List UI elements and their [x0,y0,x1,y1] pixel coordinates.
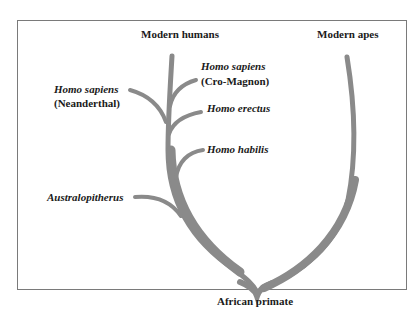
label-modern-apes: Modern apes [317,27,378,41]
ape-lineage-branch [262,57,354,288]
label-homo-erectus: Homo erectus [207,101,270,115]
cromagnon-branch [170,80,196,106]
label-australopithecus: Australopitherus [47,190,123,204]
label-african-primate: African primate [217,294,293,308]
label-modern-humans: Modern humans [141,27,219,41]
label-neanderthal-note: (Neanderthal) [54,96,120,110]
label-homo-habilis: Homo habilis [207,142,268,156]
neanderthal-branch [130,90,166,122]
label-cromagnon-name: Homo sapiens [201,59,265,73]
human-lineage-trunk [168,56,257,292]
evolution-tree-graphic [0,0,419,313]
habilis-branch [176,150,203,178]
erectus-branch [169,112,201,134]
label-cromagnon-note: (Cro-Magnon) [201,74,269,88]
label-neanderthal-name: Homo sapiens [54,82,118,96]
